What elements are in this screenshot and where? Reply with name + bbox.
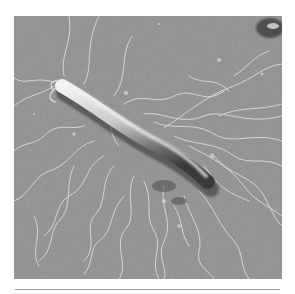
micrograph-photo <box>14 16 282 279</box>
micrograph-svg <box>14 16 282 279</box>
bottom-rule <box>15 289 280 290</box>
